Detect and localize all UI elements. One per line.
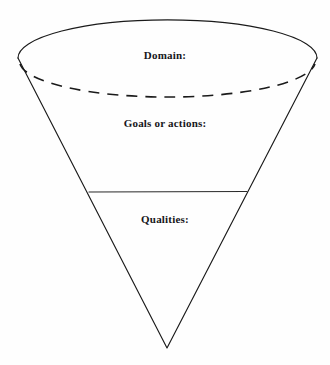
- cone-rim-front-arc-dashed: [20, 64, 315, 97]
- label-goals-or-actions: Goals or actions:: [0, 118, 330, 129]
- cone-side-lines: [18, 58, 317, 348]
- cone-diagram: Domain: Goals or actions: Qualities:: [0, 0, 330, 365]
- qualities-divider-line: [89, 192, 247, 193]
- label-domain: Domain:: [0, 50, 330, 61]
- label-qualities: Qualities:: [0, 214, 330, 225]
